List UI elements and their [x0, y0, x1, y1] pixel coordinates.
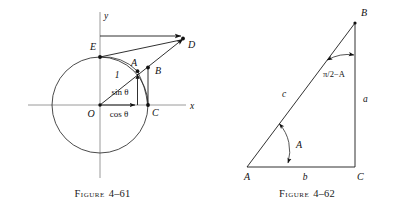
point-E-dot	[98, 55, 102, 59]
point-A-dot	[136, 69, 140, 73]
figure-4-61-drawing: y x E A B C D O 1 sin θ cos θ	[0, 0, 205, 185]
caption-word-right: Figure	[279, 188, 309, 199]
vertex-label-A: A	[243, 171, 251, 182]
figure-4-61-caption: Figure4–61	[0, 188, 205, 199]
point-D-dot	[181, 37, 185, 41]
point-O-dot	[98, 103, 101, 106]
figure-page: y x E A B C D O 1 sin θ cos θ Figure4–61	[0, 0, 409, 207]
radius-label: 1	[115, 70, 120, 80]
side-label-a: a	[363, 94, 368, 104]
sine-label: sin θ	[111, 87, 128, 97]
angle-label-B: π/2−A	[323, 69, 346, 79]
point-label-A: A	[130, 57, 138, 68]
point-label-O: O	[87, 108, 94, 119]
side-label-b: b	[303, 172, 308, 182]
figure-4-61-panel: y x E A B C D O 1 sin θ cos θ Figure4–61	[0, 0, 205, 207]
vertex-label-C: C	[357, 171, 364, 182]
segment-E-to-D	[100, 40, 183, 58]
point-C-dot	[146, 103, 150, 107]
angle-A-arc	[280, 124, 290, 163]
cosine-label: cos θ	[110, 109, 129, 119]
angle-label-A: A	[295, 139, 303, 150]
vertex-B-dot	[353, 21, 356, 24]
point-label-E: E	[89, 41, 96, 52]
point-label-C: C	[152, 107, 159, 118]
side-label-c: c	[282, 89, 287, 99]
caption-number-right: 4–62	[313, 188, 335, 199]
angle-B-arc	[328, 55, 355, 60]
figure-4-62-caption: Figure4–62	[205, 188, 409, 199]
point-label-B: B	[155, 65, 161, 76]
caption-number-left: 4–61	[109, 188, 131, 199]
figure-4-62-panel: A B C a b c A π/2−A Figure4–62	[205, 0, 409, 207]
caption-word-left: Figure	[74, 188, 104, 199]
vertex-label-B: B	[361, 7, 367, 18]
x-axis-label: x	[189, 101, 195, 111]
point-B-dot	[146, 66, 150, 70]
point-label-D: D	[187, 39, 196, 50]
figure-4-62-drawing: A B C a b c A π/2−A	[205, 0, 409, 185]
y-axis-label: y	[103, 11, 109, 21]
